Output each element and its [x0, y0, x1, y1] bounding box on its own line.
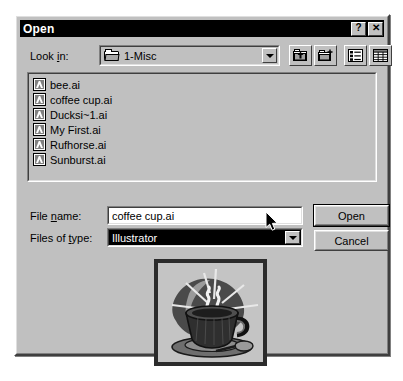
file-name-label-static: File name:: [30, 210, 81, 222]
list-item[interactable]: My First.ai: [32, 122, 373, 137]
dialog-inner-frame: Open ? ✕ Look in: 1-Misc: [16, 16, 388, 354]
help-button[interactable]: ?: [351, 22, 366, 36]
file-name-input[interactable]: coffee cup.ai: [107, 206, 303, 225]
coffee-cup-clipart-preview: [154, 259, 267, 366]
list-item[interactable]: coffee cup.ai: [32, 92, 373, 107]
look-in-label: Look in:: [30, 50, 69, 62]
create-new-folder-button[interactable]: [314, 45, 337, 66]
open-dialog: Open ? ✕ Look in: 1-Misc: [14, 14, 390, 356]
illustrator-file-icon: [33, 153, 46, 166]
chevron-down-icon: [266, 54, 274, 58]
file-name-label: Sunburst.ai: [50, 154, 106, 166]
file-list-panel[interactable]: bee.ai coffee cup.ai Ducksi~1.ai My Firs…: [27, 72, 377, 182]
details-view-button[interactable]: [369, 45, 392, 66]
illustrator-file-icon: [33, 78, 46, 91]
list-item[interactable]: Rufhorse.ai: [32, 137, 373, 152]
look-in-value: 1-Misc: [124, 50, 156, 62]
up-one-level-button[interactable]: [289, 45, 312, 66]
look-in-combobox[interactable]: 1-Misc: [99, 45, 280, 66]
title-bar[interactable]: Open ? ✕: [20, 20, 384, 37]
list-item[interactable]: Ducksi~1.ai: [32, 107, 373, 122]
file-name-value: coffee cup.ai: [112, 210, 174, 222]
new-folder-icon: [318, 49, 334, 63]
open-button-label: Open: [338, 210, 365, 222]
files-of-type-label-static: Files of type:: [30, 232, 92, 244]
file-name-label: coffee cup.ai: [50, 94, 112, 106]
look-in-combobox-face: 1-Misc: [100, 46, 279, 65]
illustrator-file-icon: [33, 93, 46, 106]
folder-icon: [104, 49, 120, 62]
files-of-type-face: Illustrator: [108, 229, 302, 246]
chevron-down-icon: [289, 236, 297, 240]
list-item[interactable]: bee.ai: [32, 77, 373, 92]
list-view-button[interactable]: [344, 45, 367, 66]
look-in-dropdown-button[interactable]: [262, 48, 277, 63]
files-of-type-value: Illustrator: [109, 230, 301, 245]
file-name-label: My First.ai: [50, 124, 101, 136]
files-of-type-combobox[interactable]: Illustrator: [107, 228, 303, 247]
list-item[interactable]: Sunburst.ai: [32, 152, 373, 167]
illustrator-file-icon: [33, 108, 46, 121]
file-name-label: bee.ai: [50, 79, 80, 91]
coffee-cup-artwork: [158, 263, 263, 362]
file-list-items: bee.ai coffee cup.ai Ducksi~1.ai My Firs…: [28, 73, 376, 181]
file-name-input-face: coffee cup.ai: [108, 207, 302, 224]
up-one-level-icon: [293, 49, 309, 63]
open-button[interactable]: Open: [314, 205, 389, 226]
file-name-label: Ducksi~1.ai: [50, 109, 107, 121]
list-view-icon: [348, 49, 364, 63]
dialog-title: Open: [23, 22, 351, 36]
dialog-toolbar: [289, 45, 394, 66]
files-of-type-dropdown-button[interactable]: [285, 231, 300, 244]
illustrator-file-icon: [33, 138, 46, 151]
look-in-row: Look in: 1-Misc: [27, 45, 377, 67]
cancel-button-label: Cancel: [334, 235, 368, 247]
file-name-label: Rufhorse.ai: [50, 139, 106, 151]
cancel-button[interactable]: Cancel: [314, 230, 389, 251]
details-view-icon: [373, 49, 389, 63]
close-button[interactable]: ✕: [368, 22, 383, 36]
illustrator-file-icon: [33, 123, 46, 136]
title-bar-buttons: ? ✕: [351, 22, 383, 36]
